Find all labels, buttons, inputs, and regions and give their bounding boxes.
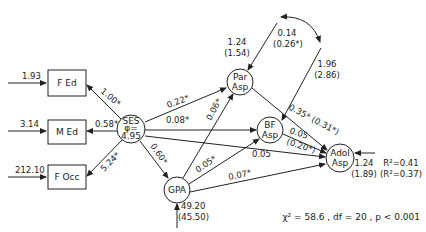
path-diagram: 1.93 3.14 212.10 F Ed M Ed F Occ 1.00* 0… — [0, 0, 426, 232]
coef-gpa-par: 0.06* — [204, 97, 224, 122]
error-focc: 212.10 — [15, 165, 45, 175]
coef-ses-med: 0.58* — [95, 119, 118, 129]
label-adol-1: Adol — [330, 148, 350, 158]
coef-bf-adol-2: (0.20*) — [285, 136, 316, 155]
path-gpa-adol — [190, 164, 325, 192]
error-adol-2: (1.89) — [351, 169, 377, 179]
error-gpa-1: 49.20 — [181, 201, 205, 211]
label-par-1: Par — [233, 72, 248, 82]
coef-ses-bf: 0.08* — [166, 115, 189, 125]
label-bf-1: BF — [264, 120, 275, 130]
error-bf-2: (2.86) — [314, 70, 340, 80]
error-med: 3.14 — [20, 119, 39, 129]
label-gpa: GPA — [168, 185, 187, 195]
label-f-occ: F Occ — [54, 172, 79, 182]
error-fed: 1.93 — [22, 71, 41, 81]
error-bf-1: 1.96 — [318, 59, 337, 69]
label-m-ed: M Ed — [56, 127, 78, 137]
coef-ses-gpa: 0.60* — [148, 141, 169, 166]
cov-label-2: (0.26*) — [273, 39, 303, 49]
cov-label-1: 0.14 — [278, 28, 297, 38]
r2-1: R²=0.41 — [383, 158, 418, 168]
label-f-ed: F Ed — [57, 78, 76, 88]
error-adol-1: 1.24 — [355, 158, 374, 168]
error-gpa-2: (45.50) — [178, 212, 209, 222]
label-adol-2: Asp — [332, 158, 349, 168]
model-fit: χ² = 58.6 , df = 20 , p < 0.001 — [282, 212, 420, 222]
coef-ses-fed: 1.00* — [99, 86, 123, 109]
label-ses-3: 4.95 — [121, 131, 141, 141]
coef-ses-adol: 0.05 — [252, 149, 271, 159]
error-par-2: (1.54) — [224, 48, 250, 58]
label-par-2: Asp — [232, 82, 249, 92]
coef-gpa-bf: 0.05* — [193, 153, 218, 174]
error-par-1: 1.24 — [228, 37, 247, 47]
label-bf-2: Asp — [262, 130, 279, 140]
r2-2: (R²=0.37) — [380, 169, 422, 179]
coef-ses-focc: 5.24* — [98, 150, 121, 173]
coef-ses-par: 0.22* — [165, 93, 190, 110]
